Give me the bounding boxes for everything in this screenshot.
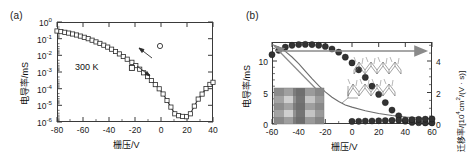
panel-b-device-micrograph-inset — [274, 88, 324, 124]
panel-a-data-curve — [55, 29, 215, 119]
panel-a: (a) 100 10-1 10-2 10-3 10-4 10-5 10-6 -8… — [0, 0, 236, 163]
panel-a-legend-open-circle — [157, 43, 162, 48]
panel-a-legend-open-square — [129, 65, 134, 70]
panel-a-graphics — [0, 0, 236, 163]
panel-b-conductance-pointer — [274, 46, 322, 95]
panel-a-open-markers — [55, 29, 215, 119]
panel-a-legend-markers — [129, 43, 162, 70]
panel-b-graphics — [236, 0, 472, 163]
panel-b: (b) 10 5 0 4 2 0 -60 -40 -20 0 20 40 60 … — [236, 0, 472, 163]
panel-a-sweep-arrows — [137, 48, 152, 76]
